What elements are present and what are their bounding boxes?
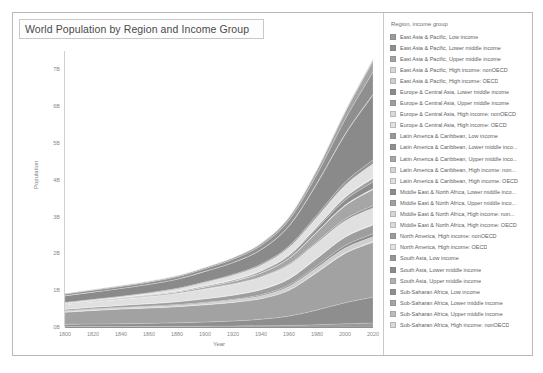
legend-item-label: Latin America & Caribbean, Upper middle … [400, 156, 517, 162]
x-axis-tick-label: 2000 [339, 331, 351, 337]
legend-item[interactable]: Sub-Saharan Africa, High income: nonOECD [390, 319, 528, 330]
legend-item[interactable]: Middle East & North Africa, Upper middle… [390, 197, 528, 208]
legend-item[interactable]: Sub-Saharan Africa, Upper middle income [390, 308, 528, 319]
y-axis-tick-label: 7B [53, 66, 60, 72]
legend-swatch-icon [390, 200, 396, 206]
legend-swatch-icon [390, 267, 396, 273]
x-axis-tick-label: 1840 [115, 331, 127, 337]
legend-swatch-icon [390, 278, 396, 284]
legend-item-label: Latin America & Caribbean, Lower middle … [400, 144, 517, 150]
legend-swatch-icon [390, 244, 396, 250]
legend-item[interactable]: Latin America & Caribbean, Lower middle … [390, 142, 528, 153]
legend-item[interactable]: Europe & Central Asia, High income: OECD [390, 120, 528, 131]
legend-item-label: South Asia, Lower middle income [400, 267, 481, 273]
y-axis-tick-label: 4B [53, 177, 60, 183]
x-axis-tick-label: 1920 [227, 331, 239, 337]
x-axis-tick-label: 2020 [367, 331, 379, 337]
legend-item[interactable]: Middle East & North Africa, High income:… [390, 209, 528, 220]
legend-item-label: East Asia & Pacific, Upper middle income [400, 56, 501, 62]
legend-item[interactable]: East Asia & Pacific, Low income [390, 31, 528, 42]
legend-swatch-icon [390, 322, 396, 328]
legend-item[interactable]: East Asia & Pacific, Upper middle income [390, 53, 528, 64]
legend-swatch-icon [390, 45, 396, 51]
legend-pane: Region, income group East Asia & Pacific… [383, 13, 532, 355]
plot-wrap: 0B1B2B3B4B5B6B7B 18001820184018601880190… [65, 51, 373, 327]
x-axis-tick-label: 1880 [171, 331, 183, 337]
legend-swatch-icon [390, 289, 396, 295]
legend-item[interactable]: North America, High income: nonOECD [390, 231, 528, 242]
y-axis-tick-label: 3B [53, 214, 60, 220]
legend-item-label: Latin America & Caribbean, Low income [400, 133, 498, 139]
x-axis-tick-label: 1960 [283, 331, 295, 337]
x-axis-tick-label: 1940 [255, 331, 267, 337]
legend-item-label: South Asia, Upper middle income [400, 278, 481, 284]
legend-item-label: East Asia & Pacific, High income: nonOEC… [400, 67, 508, 73]
legend-item[interactable]: Latin America & Caribbean, High income: … [390, 164, 528, 175]
legend-item[interactable]: South Asia, Upper middle income [390, 275, 528, 286]
legend-item[interactable]: South Asia, Lower middle income [390, 264, 528, 275]
legend-item-label: North America, High income: OECD [400, 244, 487, 250]
chart-title-box[interactable]: World Population by Region and Income Gr… [19, 19, 264, 39]
legend-swatch-icon [390, 56, 396, 62]
legend-item-label: East Asia & Pacific, Lower middle income [400, 45, 501, 51]
legend-item[interactable]: Latin America & Caribbean, Low income [390, 131, 528, 142]
legend-item-label: East Asia & Pacific, High income: OECD [400, 78, 498, 84]
legend-swatch-icon [390, 133, 396, 139]
legend-swatch-icon [390, 255, 396, 261]
legend-item[interactable]: Middle East & North Africa, Lower middle… [390, 186, 528, 197]
legend-item-label: Sub-Saharan Africa, High income: nonOECD [400, 322, 509, 328]
x-axis-tick-label: 1800 [59, 331, 71, 337]
x-axis-line [65, 327, 373, 328]
legend-swatch-icon [390, 178, 396, 184]
x-axis-title: Year [65, 341, 373, 347]
legend-swatch-icon [390, 167, 396, 173]
x-axis-tick-label: 1980 [311, 331, 323, 337]
legend-swatch-icon [390, 311, 396, 317]
x-axis-tick-label: 1820 [87, 331, 99, 337]
legend-item[interactable]: Europe & Central Asia, Lower middle inco… [390, 86, 528, 97]
legend-swatch-icon [390, 189, 396, 195]
legend-item-label: Europe & Central Asia, High income: OECD [400, 122, 507, 128]
legend-swatch-icon [390, 156, 396, 162]
legend-item[interactable]: North America, High income: OECD [390, 242, 528, 253]
chart-pane: World Population by Region and Income Gr… [13, 13, 383, 355]
y-axis-tick-label: 5B [53, 140, 60, 146]
legend-item[interactable]: Sub-Saharan Africa, Lower middle income [390, 297, 528, 308]
legend-swatch-icon [390, 122, 396, 128]
y-axis-tick-label: 2B [53, 250, 60, 256]
legend-item[interactable]: Europe & Central Asia, High income: nonO… [390, 109, 528, 120]
legend-item-label: Middle East & North Africa, Upper middle… [400, 200, 516, 206]
legend-item-label: Sub-Saharan Africa, Lower middle income [400, 300, 503, 306]
legend-swatch-icon [390, 100, 396, 106]
legend-item[interactable]: Europe & Central Asia, Upper middle inco… [390, 98, 528, 109]
area-series-svg [65, 51, 373, 327]
legend-swatch-icon [390, 300, 396, 306]
legend-item[interactable]: East Asia & Pacific, Lower middle income [390, 42, 528, 53]
legend-item-label: Sub-Saharan Africa, Upper middle income [400, 311, 503, 317]
legend-item-label: Sub-Saharan Africa, Low income [400, 289, 480, 295]
legend-list: East Asia & Pacific, Low incomeEast Asia… [390, 31, 528, 331]
legend-item[interactable]: South Asia, Low income [390, 253, 528, 264]
legend-item-label: Middle East & North Africa, High income:… [400, 222, 517, 228]
page-title: World Population by Region and Income Gr… [25, 23, 249, 35]
legend-item[interactable]: Middle East & North Africa, High income:… [390, 220, 528, 231]
legend-item-label: Europe & Central Asia, High income: nonO… [400, 111, 516, 117]
legend-item[interactable]: Latin America & Caribbean, High income: … [390, 175, 528, 186]
visualization-panel: World Population by Region and Income Gr… [12, 12, 533, 356]
legend-swatch-icon [390, 89, 396, 95]
legend-item-label: Latin America & Caribbean, High income: … [400, 167, 516, 173]
legend-item[interactable]: East Asia & Pacific, High income: nonOEC… [390, 64, 528, 75]
stacked-area-plot[interactable] [65, 51, 373, 327]
legend-swatch-icon [390, 34, 396, 40]
legend-item[interactable]: Latin America & Caribbean, Upper middle … [390, 153, 528, 164]
y-axis-tick-label: 0B [53, 324, 60, 330]
legend-item[interactable]: Sub-Saharan Africa, Low income [390, 286, 528, 297]
legend-item-label: East Asia & Pacific, Low income [400, 34, 478, 40]
y-axis-tick-label: 1B [53, 287, 60, 293]
y-axis-title: Population [33, 161, 39, 189]
legend-swatch-icon [390, 144, 396, 150]
x-axis-tick-label: 1860 [143, 331, 155, 337]
legend-item-label: North America, High income: nonOECD [400, 233, 497, 239]
legend-item[interactable]: East Asia & Pacific, High income: OECD [390, 75, 528, 86]
x-axis-tick-label: 1900 [199, 331, 211, 337]
